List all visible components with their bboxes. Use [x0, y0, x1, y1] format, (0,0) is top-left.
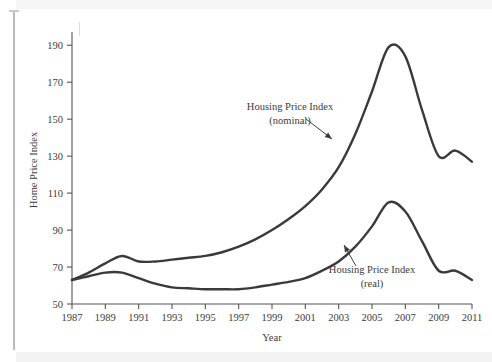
- y-tick-label: 90: [53, 225, 64, 236]
- figure-container: 5070901101301501701901987198919911993199…: [0, 0, 492, 362]
- x-tick-label: 2009: [428, 312, 449, 323]
- x-tick-label: 1997: [228, 312, 249, 323]
- y-tick-label: 130: [47, 151, 63, 162]
- y-tick-label: 110: [48, 188, 63, 199]
- x-tick-label: 1993: [162, 312, 183, 323]
- x-tick-label: 1999: [262, 312, 283, 323]
- annotation-nominal-label-line2: (nominal): [269, 115, 311, 127]
- x-tick-label: 1991: [128, 312, 149, 323]
- data-series-group: [72, 45, 472, 290]
- y-tick-label: 170: [47, 77, 63, 88]
- x-tick-label: 1989: [95, 312, 116, 323]
- annotation-nominal-label-line1: Housing Price Index: [247, 101, 334, 112]
- annotation-nominal-arrow-head: [325, 132, 332, 139]
- y-tick-label: 50: [53, 299, 64, 310]
- y-axis-ticks: 507090110130150170190: [47, 40, 72, 310]
- x-axis-ticks: 1987198919911993199519971999200120032005…: [62, 304, 483, 323]
- x-tick-label: 2005: [362, 312, 383, 323]
- line-real: [72, 202, 472, 290]
- x-axis-title: Year: [262, 332, 282, 343]
- home-price-index-line-chart: 5070901101301501701901987198919911993199…: [0, 0, 492, 362]
- annotation-real: Housing Price Index(real): [329, 245, 416, 290]
- line-nominal: [72, 45, 472, 280]
- x-tick-label: 2001: [295, 312, 316, 323]
- x-tick-label: 1995: [195, 312, 216, 323]
- y-tick-label: 190: [47, 40, 63, 51]
- annotation-real-label-line2: (real): [361, 278, 384, 290]
- annotation-nominal: Housing Price Index(nominal): [247, 101, 334, 139]
- x-tick-label: 2007: [395, 312, 416, 323]
- x-tick-label: 2011: [462, 312, 483, 323]
- y-tick-label: 70: [53, 262, 64, 273]
- annotation-real-label-line1: Housing Price Index: [329, 264, 416, 275]
- y-axis-title: Home Price Index: [28, 131, 39, 208]
- y-tick-label: 150: [47, 114, 63, 125]
- x-tick-label: 2003: [328, 312, 349, 323]
- x-tick-label: 1987: [62, 312, 83, 323]
